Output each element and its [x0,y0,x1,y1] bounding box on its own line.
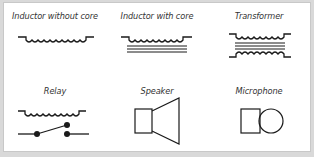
speaker-icon [106,78,208,153]
inductor-with-core-icon [106,3,208,78]
transformer-icon [208,3,310,78]
symbol-inductor-with-core: Inductor with core [106,3,208,78]
symbol-relay: Relay [4,78,106,153]
symbol-transformer: Transformer [208,3,310,78]
microphone-icon [208,78,310,153]
symbol-inductor-without-core: Inductor without core [4,3,106,78]
symbols-panel: Inductor without core Inductor with core… [3,2,311,152]
relay-icon [4,78,106,153]
symbol-microphone: Microphone [208,78,310,153]
symbol-speaker: Speaker [106,78,208,153]
inductor-without-core-icon [4,3,106,78]
